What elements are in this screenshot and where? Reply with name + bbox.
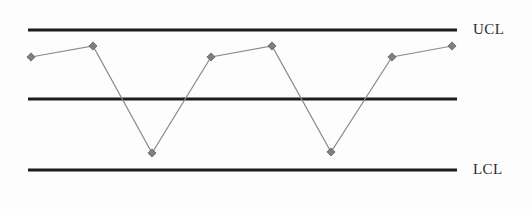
ucl-label: UCL: [473, 22, 504, 37]
data-point-marker: [89, 42, 97, 50]
control-chart: UCL LCL: [0, 0, 532, 209]
data-point-marker: [148, 149, 156, 157]
lcl-label: LCL: [473, 162, 503, 177]
control-chart-plot: [0, 0, 532, 209]
data-point-marker: [27, 53, 35, 61]
data-point-marker: [388, 53, 396, 61]
data-point-marker: [327, 148, 335, 156]
data-point-marker: [268, 42, 276, 50]
data-point-marker: [448, 42, 456, 50]
data-point-marker: [207, 53, 215, 61]
